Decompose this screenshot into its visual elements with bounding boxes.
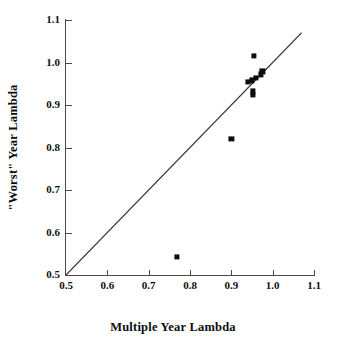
- y-tick-0.7: [66, 190, 72, 191]
- x-tick-label-0.8: 0.8: [173, 279, 207, 291]
- x-tick-label-0.6: 0.6: [90, 279, 124, 291]
- x-tick-0.7: [149, 270, 150, 276]
- data-point: [246, 79, 251, 84]
- x-tick-label-0.9: 0.9: [214, 279, 248, 291]
- y-tick-label-1.1: 1.1: [30, 13, 60, 25]
- y-tick-label-0.7: 0.7: [30, 183, 60, 195]
- y-tick-0.9: [66, 105, 72, 106]
- y-tick-label-0.9: 0.9: [30, 98, 60, 110]
- x-tick-label-1.0: 1.0: [256, 279, 290, 291]
- x-tick-1.0: [273, 270, 274, 276]
- x-tick-label-0.5: 0.5: [49, 279, 83, 291]
- x-tick-1.1: [314, 270, 315, 276]
- data-point: [174, 254, 179, 259]
- data-point: [251, 54, 256, 59]
- y-tick-1.0: [66, 63, 72, 64]
- y-tick-0.6: [66, 233, 72, 234]
- x-axis-title: Multiple Year Lambda: [0, 320, 346, 335]
- data-point: [229, 136, 234, 141]
- x-tick-0.6: [107, 270, 108, 276]
- identity-reference-line: [0, 0, 346, 343]
- x-tick-0.9: [231, 270, 232, 276]
- y-tick-0.8: [66, 148, 72, 149]
- x-tick-0.8: [190, 270, 191, 276]
- y-tick-label-0.8: 0.8: [30, 141, 60, 153]
- y-tick-label-0.6: 0.6: [30, 226, 60, 238]
- y-axis-title-container: "Worst" Year Lambda: [0, 0, 26, 295]
- y-tick-label-1.0: 1.0: [30, 56, 60, 68]
- y-tick-1.1: [66, 20, 72, 21]
- data-point: [258, 72, 263, 77]
- x-tick-label-0.7: 0.7: [132, 279, 166, 291]
- y-axis-title: "Worst" Year Lambda: [6, 84, 21, 210]
- scatter-plot-figure: "Worst" Year Lambda 1.1 1.0 0.9 0.8 0.7 …: [0, 0, 346, 343]
- data-point: [250, 92, 255, 97]
- x-tick-label-1.1: 1.1: [297, 279, 331, 291]
